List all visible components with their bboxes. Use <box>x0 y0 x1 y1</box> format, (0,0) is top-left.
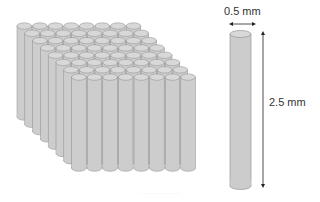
single-cylinder <box>229 22 265 190</box>
single-cylinder-top <box>230 31 251 38</box>
diameter-arrow <box>229 22 256 26</box>
diagram-canvas: 0.5 mm 2.5 mm ·· ··· ··· ··· ······· <box>0 0 320 202</box>
cylinder <box>134 74 149 171</box>
cylinder <box>181 74 196 171</box>
cylinder <box>165 74 180 171</box>
height-label: 2.5 mm <box>269 96 306 108</box>
cylinder-array <box>17 23 195 172</box>
height-arrow <box>261 31 265 188</box>
figure-caption: ·· ··· ··· ··· ······· <box>0 190 320 196</box>
cylinder <box>150 74 165 171</box>
cylinder <box>87 74 102 171</box>
cylinder <box>72 74 87 171</box>
cylinder <box>103 74 118 171</box>
single-cylinder-body <box>230 34 251 186</box>
cylinder <box>118 74 133 171</box>
diameter-label: 0.5 mm <box>224 5 261 17</box>
